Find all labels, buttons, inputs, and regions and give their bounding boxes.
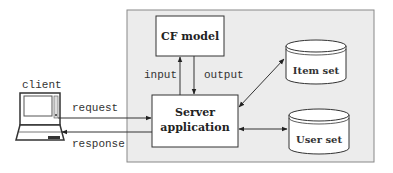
cf-model-node[interactable]: CF model bbox=[156, 16, 224, 56]
server-label-line2: application bbox=[160, 121, 229, 134]
laptop-icon[interactable] bbox=[16, 93, 64, 140]
server-application-node[interactable]: Server application bbox=[152, 95, 238, 147]
item-set-label: Item set bbox=[293, 65, 340, 76]
user-set-node[interactable]: User set bbox=[289, 109, 349, 154]
item-set-node[interactable]: Item set bbox=[286, 40, 346, 84]
client-label: client bbox=[22, 79, 62, 91]
input-label: input bbox=[144, 69, 177, 81]
diagram-canvas: CF model Server application input output… bbox=[0, 0, 393, 173]
server-label-line1: Server bbox=[175, 106, 215, 119]
request-label: request bbox=[72, 102, 118, 114]
cf-model-label: CF model bbox=[161, 30, 219, 43]
output-label: output bbox=[204, 69, 244, 81]
response-label: response bbox=[72, 138, 125, 150]
user-set-label: User set bbox=[296, 134, 342, 145]
